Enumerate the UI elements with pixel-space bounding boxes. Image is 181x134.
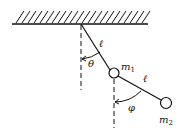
length-lower-label: ℓ — [143, 73, 147, 84]
phi-arc — [115, 91, 141, 102]
length-upper-label: ℓ — [99, 38, 103, 49]
mass-upper — [109, 68, 119, 78]
ceiling-hatching — [16, 11, 150, 23]
phi-label: φ — [128, 102, 135, 113]
mass-lower — [161, 98, 172, 109]
theta-label: θ — [88, 58, 94, 69]
double-pendulum-diagram: ℓ θ m1 ℓ φ m2 — [0, 0, 181, 134]
rod-upper — [81, 24, 110, 70]
mass-upper-label: m1 — [121, 61, 135, 74]
rod-lower — [118, 76, 161, 100]
mass-lower-label: m2 — [159, 114, 173, 127]
